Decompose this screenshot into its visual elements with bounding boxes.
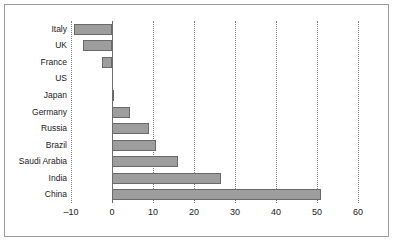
gridline-30: [235, 21, 236, 203]
x-tick--10: –10: [51, 206, 91, 218]
y-label-russia: Russia: [41, 123, 67, 134]
y-label-france: France: [41, 57, 67, 68]
x-tick-40: 40: [256, 206, 296, 218]
bar-japan: [112, 90, 114, 101]
bar-uk: [83, 40, 112, 51]
gridline--10: [71, 21, 72, 203]
bar-india: [112, 173, 221, 184]
x-tick-20: 20: [174, 206, 214, 218]
y-label-japan: Japan: [44, 90, 67, 101]
y-label-uk: UK: [55, 40, 67, 51]
bar-saudi-arabia: [112, 156, 178, 167]
y-label-brazil: Brazil: [46, 140, 67, 151]
x-tick-30: 30: [215, 206, 255, 218]
x-tick-50: 50: [297, 206, 337, 218]
x-tick-0: 0: [92, 206, 132, 218]
x-tick-60: 60: [338, 206, 378, 218]
gridline-40: [276, 21, 277, 203]
bar-italy: [74, 24, 112, 35]
bar-chart: ItalyUKFranceUSJapanGermanyRussiaBrazilS…: [0, 0, 393, 241]
bar-russia: [112, 123, 149, 134]
plot-area: [71, 21, 358, 203]
y-label-germany: Germany: [32, 107, 67, 118]
y-label-saudi-arabia: Saudi Arabia: [19, 156, 67, 167]
y-label-italy: Italy: [51, 24, 67, 35]
gridline-60: [358, 21, 359, 203]
bar-china: [112, 189, 321, 200]
gridline-50: [317, 21, 318, 203]
y-label-india: India: [49, 173, 67, 184]
figure: ItalyUKFranceUSJapanGermanyRussiaBrazilS…: [0, 0, 393, 241]
bar-france: [102, 57, 112, 68]
bar-germany: [112, 107, 130, 118]
bar-brazil: [112, 140, 156, 151]
y-label-china: China: [45, 189, 67, 200]
y-label-us: US: [55, 73, 67, 84]
x-tick-10: 10: [133, 206, 173, 218]
